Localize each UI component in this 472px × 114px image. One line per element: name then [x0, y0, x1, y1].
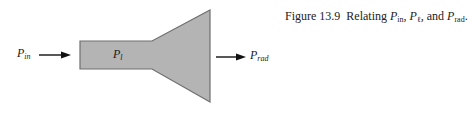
- radiated-power-label: Prad: [250, 48, 268, 63]
- loss-power-sub: l: [120, 53, 122, 62]
- output-arrow-icon: [216, 54, 246, 61]
- caption-var-prad-sub: rad: [454, 15, 464, 24]
- input-power-label: Pin: [17, 46, 31, 61]
- radiated-power-sub: rad: [257, 54, 268, 63]
- input-power-sub: in: [24, 52, 30, 61]
- caption-prefix: Relating: [346, 9, 390, 23]
- input-arrow-icon: [39, 52, 71, 59]
- caption-sep-and: , and: [421, 9, 447, 23]
- horn-shape: [80, 10, 210, 102]
- caption-suffix: .: [465, 9, 468, 23]
- loss-power-label: Pl: [113, 47, 123, 62]
- caption-var-pl: P: [410, 9, 417, 23]
- figure-number: Figure 13.9: [285, 9, 340, 23]
- figure-caption: Figure 13.9 Relating Pin, Pℓ, and Prad.: [285, 9, 468, 24]
